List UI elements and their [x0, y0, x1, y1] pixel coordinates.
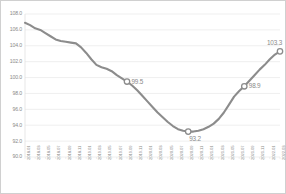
x-axis-tick-label: 2020.01: [149, 146, 153, 160]
x-axis-tick-label: 2018.05: [47, 146, 51, 160]
x-axis-tick-label: 2019.09: [129, 146, 133, 160]
y-axis-tick-label: 94.0: [3, 123, 22, 128]
y-axis-tick-label: 108.0: [3, 11, 22, 16]
series-line: [25, 23, 280, 132]
y-axis-tick-label: 98.0: [3, 91, 22, 96]
x-axis-tick-label: 2021.09: [251, 146, 255, 160]
x-axis-tick-label: 2019.07: [119, 146, 123, 160]
x-axis-tick-label: 2019.05: [108, 146, 112, 160]
x-axis-tick-label: 2018.07: [57, 146, 61, 160]
x-axis-tick-label: 2022.01: [272, 146, 276, 160]
x-axis-tick-label: 2020.11: [200, 146, 204, 160]
x-axis-tick-label: 2021.01: [210, 146, 214, 160]
x-axis-tick-label: 2021.11: [261, 146, 265, 160]
chart-card: 108.0106.0104.0102.0100.098.096.094.092.…: [0, 0, 286, 194]
data-point-marker: [277, 49, 282, 54]
x-axis-tick-label: 2018.11: [78, 146, 82, 160]
y-axis-tick-label: 96.0: [3, 107, 22, 112]
x-axis-tick-label: 2021.03: [221, 146, 225, 160]
x-axis-tick-label: 2021.07: [241, 146, 245, 160]
y-axis-tick-label: 90.0: [3, 154, 22, 159]
data-value-label: 93.2: [189, 136, 201, 142]
x-axis-tick-label: 2020.09: [190, 146, 194, 160]
x-axis-tick-label: 2020.05: [170, 146, 174, 160]
x-axis-tick-label: 2019.03: [98, 146, 102, 160]
line-chart-plot: [1, 1, 286, 194]
data-point-marker: [186, 129, 191, 134]
x-axis-tick-label: 2018.03: [37, 146, 41, 160]
data-point-marker: [124, 79, 129, 84]
x-axis-tick-label: 2019.11: [139, 146, 143, 160]
data-value-label: 98.9: [249, 83, 261, 89]
x-axis-tick-label: 2021.05: [231, 146, 235, 160]
data-point-marker: [242, 84, 247, 89]
x-axis-tick-label: 2018.01: [27, 146, 31, 160]
x-axis-tick-label: 2020.07: [180, 146, 184, 160]
x-axis-tick-label: 2020.03: [159, 146, 163, 160]
x-axis-tick-label: 2022.03: [282, 146, 286, 160]
y-axis-tick-label: 100.0: [3, 75, 22, 80]
x-axis-tick-label: 2019.01: [88, 146, 92, 160]
data-value-label: 99.5: [132, 79, 144, 85]
data-value-label: 103.3: [267, 40, 282, 46]
y-axis-tick-label: 102.0: [3, 59, 22, 64]
x-axis-tick-label: 2018.09: [68, 146, 72, 160]
y-axis-tick-label: 92.0: [3, 139, 22, 144]
y-axis-tick-label: 104.0: [3, 43, 22, 48]
y-axis-tick-label: 106.0: [3, 27, 22, 32]
